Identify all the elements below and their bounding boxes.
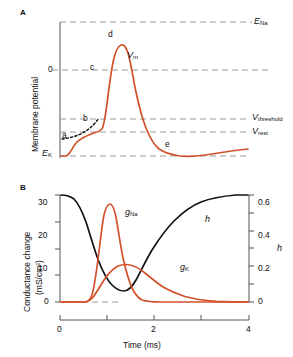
action-potential-figure: A Membrane potential 0 ENa Vthreshold Vr… [0,0,293,357]
h-inactivation-trace [61,195,248,291]
panel-b-x-tick-0: 0 [57,324,62,334]
h-curve-label: h [205,214,210,224]
phase-label-b: b [83,113,88,123]
panel-b-x-tick-2: 2 [151,324,156,334]
panel-b-x-axis-title: Time (ms) [123,340,161,350]
panel-b-x-tick-4: 4 [246,324,251,334]
phase-label-e: e [165,139,170,149]
vrest-label: Vrest [252,126,268,136]
vthreshold-label: Vthreshold [252,112,283,122]
subthreshold-dotted-trace [62,118,99,139]
phase-label-c: c [90,62,94,72]
gk-curve-label: gK [180,262,189,272]
sodium-conductance-trace [61,204,248,302]
vm-label: Vm [127,50,138,60]
gna-curve-label: gNa [125,207,138,217]
potassium-conductance-trace [61,264,248,302]
ek-label: EK [42,148,52,158]
ena-label: ENa [254,16,268,26]
phase-label-d: d [108,29,113,39]
phase-label-a: a [62,130,67,140]
